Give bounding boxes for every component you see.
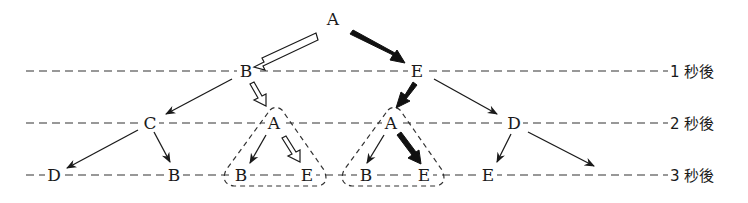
node-level3-b-group-right: B	[360, 165, 373, 185]
bold-arrow-icon	[397, 132, 421, 164]
node-level2-a-right: A	[384, 113, 398, 133]
hollow-arrow-icon	[282, 136, 300, 162]
node-level2-c: C	[143, 113, 156, 133]
node-root: A	[326, 9, 340, 29]
hollow-arrow-icon	[250, 82, 266, 106]
node-level3-e-group-right: E	[418, 165, 430, 185]
node-level3-e: E	[482, 165, 494, 185]
time-label-1: 1 秒後	[670, 63, 714, 81]
hollow-arrow-icon	[254, 33, 318, 70]
node-level2-a-left: A	[267, 113, 281, 133]
node-level1-e: E	[411, 61, 423, 81]
transition-diagram: A B E C A A D D B B E B E E 1 秒後 2 秒後 3 …	[0, 0, 748, 203]
node-level3-b-group-left: B	[235, 165, 248, 185]
node-level3-b: B	[168, 165, 181, 185]
bold-arrow-icon	[396, 82, 417, 108]
time-label-2: 2 秒後	[670, 115, 714, 133]
time-label-3: 3 秒後	[670, 167, 714, 185]
time-lines	[26, 71, 668, 175]
bold-arrow-icon	[350, 30, 405, 63]
node-level1-b: B	[240, 61, 253, 81]
node-level2-d: D	[507, 113, 521, 133]
node-level3-d: D	[47, 165, 61, 185]
node-level3-e-group-left: E	[301, 165, 313, 185]
